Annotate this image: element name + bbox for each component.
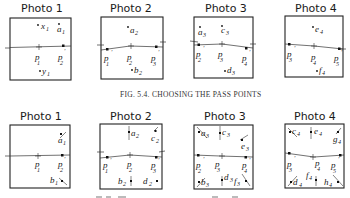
svg-text:3: 3 — [152, 61, 156, 67]
photo-title: Photo 4 — [294, 110, 336, 123]
svg-text:2: 2 — [129, 167, 132, 173]
svg-text:2: 2 — [198, 168, 201, 174]
svg-text:1: 1 — [63, 140, 66, 146]
svg-text:d: d — [143, 176, 148, 186]
svg-text:c: c — [221, 25, 225, 35]
svg-text:3: 3 — [236, 181, 240, 187]
svg-text:4: 4 — [329, 182, 332, 188]
svg-text:x: x — [40, 21, 45, 31]
svg-text:e: e — [314, 126, 318, 136]
svg-text:3: 3 — [231, 70, 235, 76]
svg-text:2: 2 — [136, 133, 139, 139]
svg-text:3: 3 — [229, 177, 233, 183]
svg-text:3: 3 — [226, 132, 230, 138]
svg-text:4: 4 — [297, 131, 300, 137]
bottom-photo-2: Photo 2 a2 c2 p1′ p2 p3′ b2 d2 — [97, 110, 165, 189]
svg-text:c: c — [222, 127, 226, 137]
svg-text:c: c — [151, 133, 155, 143]
svg-text:d: d — [293, 177, 298, 187]
bottom-photo-1: Photo 1 a1 p1 p2′ b1 — [5, 110, 70, 188]
svg-text:3: 3 — [219, 57, 223, 63]
svg-text:1: 1 — [37, 167, 40, 173]
svg-text:3: 3 — [205, 182, 209, 188]
svg-text:3: 3 — [288, 57, 292, 63]
svg-text:d: d — [224, 172, 229, 182]
svg-text:2: 2 — [60, 60, 63, 66]
photo-title: Photo 3 — [205, 2, 247, 15]
svg-text:2: 2 — [135, 30, 138, 36]
photo-title: Photo 4 — [295, 2, 337, 15]
photo-title: Photo 2 — [110, 2, 152, 15]
photo-title: Photo 1 — [20, 110, 62, 123]
svg-text:4: 4 — [322, 70, 325, 76]
svg-text:e: e — [241, 141, 245, 151]
svg-text:5: 5 — [333, 168, 336, 174]
svg-text:e: e — [315, 24, 319, 34]
svg-text:1: 1 — [37, 60, 40, 66]
svg-text:2: 2 — [129, 60, 132, 66]
svg-text:4: 4 — [338, 139, 341, 145]
svg-text:2: 2 — [156, 138, 159, 144]
top-photo-4: Photo 4 e4 p3′ p4 p5′ f4 — [285, 2, 346, 77]
truncated-caption — [96, 196, 238, 198]
svg-text:c: c — [292, 126, 296, 136]
svg-text:2: 2 — [198, 57, 201, 63]
top-photo-1: Photo 1 x1 a1 p1 p2′ y1 — [5, 2, 71, 80]
svg-text:1: 1 — [55, 180, 58, 186]
svg-text:3: 3 — [216, 167, 220, 173]
top-photo-2: Photo 2 a2 p1′ p2 p3′ b2 — [97, 2, 166, 79]
svg-text:4: 4 — [244, 168, 247, 174]
photo-title: Photo 3 — [204, 110, 246, 123]
photo-title: Photo 2 — [110, 110, 152, 123]
svg-text:1: 1 — [62, 29, 65, 35]
svg-text:4: 4 — [244, 61, 247, 67]
svg-text:3: 3 — [205, 133, 209, 139]
svg-text:1: 1 — [105, 168, 108, 174]
svg-text:1: 1 — [46, 26, 49, 32]
svg-text:2: 2 — [149, 181, 152, 187]
bottom-photo-4: Photo 4 c4 e4 g4 p3′ p4 p5′ d4 f4 h4 — [285, 110, 344, 188]
svg-text:1: 1 — [106, 61, 109, 67]
svg-text:2: 2 — [60, 167, 63, 173]
svg-text:4: 4 — [317, 166, 320, 172]
svg-text:5: 5 — [336, 61, 339, 67]
svg-text:3: 3 — [152, 168, 156, 174]
photo-title: Photo 1 — [21, 2, 63, 15]
figure-caption: FIG. 5.4. CHOOSING THE PASS POINTS — [120, 90, 261, 99]
svg-text:3: 3 — [245, 146, 249, 152]
svg-text:4: 4 — [299, 182, 302, 188]
svg-text:2: 2 — [123, 181, 126, 187]
svg-text:4: 4 — [313, 60, 316, 66]
svg-text:y: y — [41, 66, 46, 76]
svg-text:3: 3 — [225, 30, 229, 36]
svg-text:4: 4 — [320, 29, 323, 35]
svg-text:4: 4 — [319, 131, 322, 137]
svg-text:4: 4 — [309, 175, 312, 181]
top-photo-3: Photo 3 a3 c3 p2′ p3 p4′ d3 — [190, 2, 256, 78]
svg-text:1: 1 — [47, 71, 50, 77]
pass-points-figure: Photo 1 x1 a1 p1 p2′ y1 Photo 2 a2 p1′ p… — [0, 0, 350, 198]
bottom-photo-3: Photo 3 a3 c3 e3 p2′ p3 p4′ b3 d3 f3 — [194, 110, 253, 189]
svg-text:3: 3 — [202, 32, 206, 38]
svg-text:2: 2 — [139, 70, 142, 76]
svg-text:3: 3 — [288, 167, 292, 173]
